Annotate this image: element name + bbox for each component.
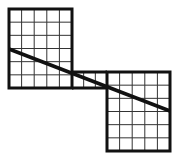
left-grid-square — [9, 9, 72, 88]
grid-diagram — [0, 0, 178, 161]
diagonal-line — [9, 49, 170, 111]
right-grid-square — [107, 72, 170, 151]
